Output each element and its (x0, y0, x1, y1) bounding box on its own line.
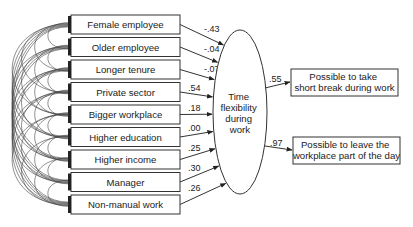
correlation-arc (22, 24, 68, 93)
coefficient-label: .18 (188, 103, 201, 113)
predictor-label: Older employee (92, 42, 160, 53)
correlation-arcs (12, 23, 68, 207)
arc-anchor (68, 151, 71, 168)
latent-variable: Time flexibility during work (213, 30, 267, 194)
predictor-label: Female employee (87, 19, 163, 30)
predictor-label: Bigger workplace (89, 109, 163, 120)
coefficient-label: -.04 (204, 44, 220, 54)
predictor-8: Non-manual work (68, 195, 180, 214)
coefficient-label: .30 (188, 163, 201, 173)
predictor-label: Non-manual work (88, 199, 163, 210)
predictor-6: Higher income (68, 150, 180, 169)
arc-anchor (68, 174, 71, 191)
predictor-label: Longer tenure (96, 64, 156, 75)
predictor-boxes: Female employeeOlder employeeLonger tenu… (68, 15, 180, 214)
sem-diagram: Female employeeOlder employeeLonger tenu… (0, 0, 413, 227)
arc-anchor (68, 106, 71, 123)
predictor-1: Older employee (68, 38, 180, 57)
predictor-4: Bigger workplace (68, 105, 180, 124)
predictor-label: Manager (107, 177, 146, 188)
predictor-label: Higher education (89, 132, 162, 143)
predictor-5: Higher education (68, 128, 180, 147)
correlation-arc (22, 136, 68, 205)
outcome-1: .55 Possible to take short break during … (265, 69, 398, 96)
predictor-7: Manager (68, 173, 180, 192)
predictor-2: Longer tenure (68, 60, 180, 79)
correlation-arc (22, 91, 68, 160)
arc-anchor (68, 61, 71, 78)
correlation-arc (48, 90, 68, 116)
correlation-arc (22, 46, 68, 115)
correlation-arc (22, 114, 68, 183)
coefficient-label: .25 (188, 143, 201, 153)
path-arrow (180, 183, 226, 204)
arc-anchor (68, 196, 71, 213)
arc-anchor (68, 129, 71, 146)
loading-label: .97 (270, 138, 283, 148)
arc-anchor (68, 39, 71, 56)
coefficient-label: .54 (188, 83, 201, 93)
coefficient-label: .00 (188, 123, 201, 133)
coefficient-label: .26 (188, 183, 201, 193)
predictor-3: Private sector (68, 83, 180, 102)
predictor-label: Private sector (96, 87, 155, 98)
coefficient-label: -.43 (204, 24, 220, 34)
predictor-label: Higher income (95, 154, 157, 165)
outcome-label: Possible to leave the workplace part of … (292, 139, 400, 161)
arc-anchor (68, 84, 71, 101)
arc-anchor (68, 16, 71, 33)
correlation-arc (22, 69, 68, 138)
outcome-2: .97 Possible to leave the workplace part… (265, 137, 400, 164)
correlation-arc (48, 113, 68, 139)
predictor-0: Female employee (68, 15, 180, 34)
loading-label: .55 (269, 74, 282, 84)
